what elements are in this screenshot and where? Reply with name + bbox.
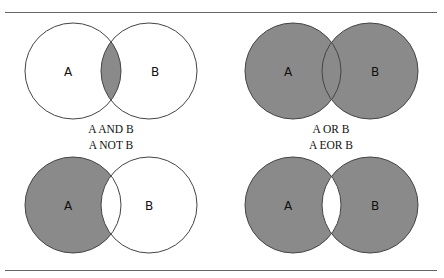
caption-not: A NOT B xyxy=(89,139,134,151)
panel-eor: A B A EOR B xyxy=(245,139,418,253)
panel-not: A B A NOT B xyxy=(25,139,197,253)
label-a: A xyxy=(284,199,293,213)
panel-or: A B A OR B xyxy=(245,23,418,135)
label-a: A xyxy=(284,65,293,79)
label-b: B xyxy=(371,65,379,79)
label-a: A xyxy=(64,199,73,213)
caption-or: A OR B xyxy=(312,123,349,135)
panel-and: A B A AND B xyxy=(25,23,197,135)
label-b: B xyxy=(151,65,159,79)
caption-eor: A EOR B xyxy=(309,139,353,151)
label-b: B xyxy=(145,199,153,213)
venn-diagrams: A B A AND B A B A OR B A B A NOT B A B A… xyxy=(0,0,444,278)
caption-and: A AND B xyxy=(88,123,134,135)
label-a: A xyxy=(64,65,73,79)
label-b: B xyxy=(371,199,379,213)
